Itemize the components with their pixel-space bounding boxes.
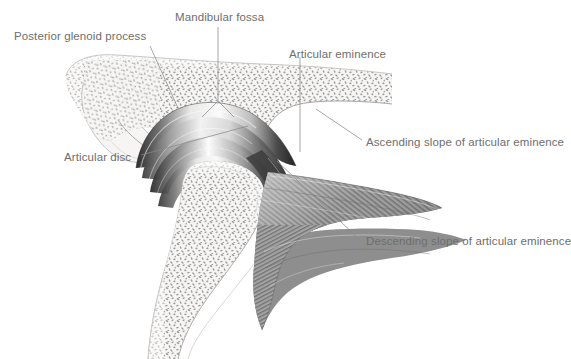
label-articular-eminence: Articular eminence [289, 48, 386, 61]
label-posterior-glenoid-process: Posterior glenoid process [14, 30, 146, 43]
label-articular-disc: Articular disc [64, 151, 131, 164]
label-ascending-slope: Ascending slope of articular eminence [366, 136, 564, 149]
label-mandibular-fossa: Mandibular fossa [175, 11, 264, 24]
label-descending-slope: Descending slope of articular eminence [366, 235, 571, 248]
